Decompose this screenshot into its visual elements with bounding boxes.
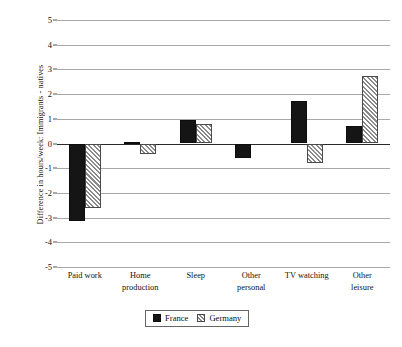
bar-group — [335, 20, 391, 267]
bar-group — [113, 20, 169, 267]
y-tick-label: 0 — [6, 139, 52, 149]
bar-germany[interactable] — [362, 76, 378, 143]
gridline — [57, 267, 390, 268]
bar-group — [57, 20, 113, 267]
legend-swatch-icon — [197, 314, 205, 322]
legend-swatch-icon — [153, 314, 161, 322]
y-tick-label: -2 — [6, 188, 52, 198]
legend-entry[interactable]: France — [153, 313, 188, 323]
x-axis-label: TV watching — [279, 270, 335, 282]
bar-germany[interactable] — [307, 144, 323, 164]
y-tick-label: 1 — [6, 114, 52, 124]
x-axis-label: Otherpersonal — [224, 270, 280, 293]
bar-france[interactable] — [69, 144, 85, 222]
bar-germany[interactable] — [85, 144, 101, 209]
bar-group — [224, 20, 280, 267]
x-axis-label: Homeproduction — [113, 270, 169, 293]
x-axis-category-labels: Paid workHomeproductionSleepOtherpersona… — [57, 270, 390, 304]
bar-france[interactable] — [235, 144, 251, 159]
x-axis-label: Paid work — [57, 270, 113, 282]
legend-label: France — [165, 313, 188, 323]
bar-france[interactable] — [346, 126, 362, 144]
x-axis-label-line: Home — [113, 270, 169, 282]
x-axis-label: Otherleisure — [335, 270, 391, 293]
y-tick-label: -4 — [6, 237, 52, 247]
bar-group — [168, 20, 224, 267]
x-axis-label-line: Other — [224, 270, 280, 282]
bar-germany[interactable] — [140, 144, 156, 154]
legend-label: Germany — [209, 313, 241, 323]
y-tick-label: -5 — [6, 262, 52, 272]
bar-germany[interactable] — [196, 124, 212, 143]
bar-france[interactable] — [180, 120, 196, 143]
x-axis-label-line: production — [113, 282, 169, 294]
x-axis-label: Sleep — [168, 270, 224, 282]
bar-group — [279, 20, 335, 267]
x-axis-label-line: Sleep — [168, 270, 224, 282]
figure-chart: Difference in hours/week: Immigrants - n… — [0, 0, 402, 347]
caption-strip — [0, 336, 402, 347]
y-tick-label: -1 — [6, 163, 52, 173]
x-axis-label-line: Paid work — [57, 270, 113, 282]
y-tick-label: 5 — [6, 15, 52, 25]
legend: FranceGermany — [145, 310, 249, 327]
y-axis-tick-labels: 543210-1-2-3-4-5 — [0, 20, 57, 267]
bar-france[interactable] — [291, 101, 307, 143]
x-axis-label-line: TV watching — [279, 270, 335, 282]
y-tick-label: 2 — [6, 89, 52, 99]
x-axis-label-line: personal — [224, 282, 280, 294]
y-tick-label: 3 — [6, 64, 52, 74]
bar-france[interactable] — [124, 142, 140, 144]
plot-area — [57, 20, 390, 267]
y-tick-label: -3 — [6, 213, 52, 223]
legend-entry[interactable]: Germany — [197, 313, 241, 323]
y-tick-label: 4 — [6, 40, 52, 50]
x-axis-label-line: leisure — [335, 282, 391, 294]
x-axis-label-line: Other — [335, 270, 391, 282]
